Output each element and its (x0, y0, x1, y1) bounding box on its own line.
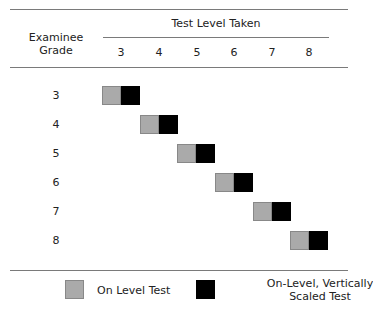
row-header-label: Examinee Grade (29, 31, 83, 57)
legend-vertically-scaled-swatch (196, 280, 215, 299)
legend-on-level-swatch (65, 280, 84, 299)
row-label-grade-3: 3 (53, 89, 60, 102)
legend-on-level-label: On Level Test (97, 284, 170, 297)
on-level-test-box (140, 115, 159, 134)
legend-label-line1: On-Level, Vertically (267, 277, 373, 290)
row-label-grade-7: 7 (53, 205, 60, 218)
column-header-4: 4 (156, 46, 163, 59)
vertically-scaled-test-box (234, 173, 253, 192)
column-header-5: 5 (194, 46, 201, 59)
on-level-test-box (215, 173, 234, 192)
vertically-scaled-test-box (272, 202, 291, 221)
legend-rule (10, 270, 348, 271)
row-label-grade-6: 6 (53, 176, 60, 189)
legend-vertically-scaled-label: On-Level, Vertically Scaled Test (267, 277, 373, 303)
column-header-7: 7 (269, 46, 276, 59)
legend-label-line2: Scaled Test (267, 290, 373, 303)
column-header-3: 3 (118, 46, 125, 59)
header-bottom-rule (10, 67, 348, 68)
on-level-test-box (290, 231, 309, 250)
column-group-rule (103, 37, 329, 38)
row-label-grade-4: 4 (53, 118, 60, 131)
column-group-label: Test Level Taken (171, 17, 260, 30)
vertically-scaled-test-box (196, 144, 215, 163)
vertically-scaled-test-box (159, 115, 178, 134)
row-label-grade-5: 5 (53, 147, 60, 160)
top-rule (10, 9, 348, 10)
column-header-8: 8 (306, 46, 313, 59)
on-level-test-box (253, 202, 272, 221)
column-header-6: 6 (231, 46, 238, 59)
row-label-grade-8: 8 (53, 234, 60, 247)
row-header-line2: Grade (29, 44, 83, 57)
on-level-test-box (102, 86, 121, 105)
vertically-scaled-test-box (121, 86, 140, 105)
vertically-scaled-test-box (309, 231, 328, 250)
on-level-test-box (177, 144, 196, 163)
row-header-line1: Examinee (29, 31, 83, 44)
